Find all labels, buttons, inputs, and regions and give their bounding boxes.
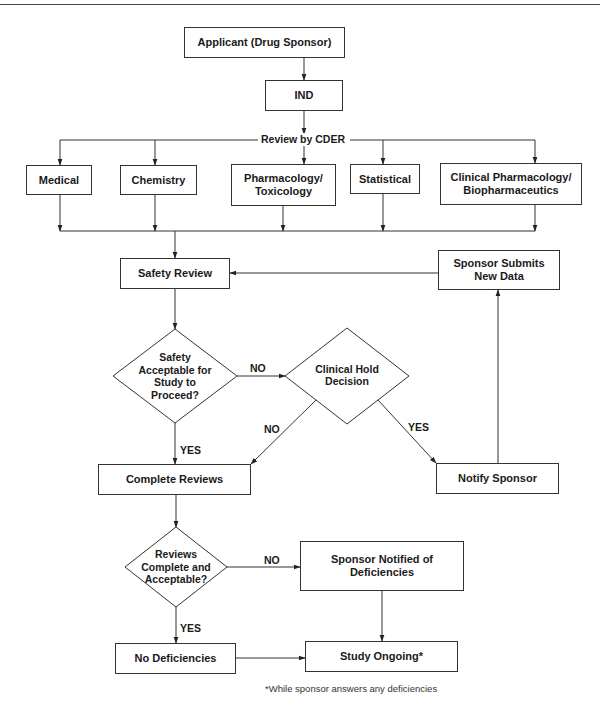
node-clinical-hold-label: Clinical Hold Decision <box>312 350 382 400</box>
edge-label-safety-yes: YES <box>180 444 201 456</box>
edge-hold-no <box>251 400 316 464</box>
node-ind: IND <box>265 80 343 111</box>
node-no-deficiencies-label: No Deficiencies <box>135 652 217 665</box>
node-statistical: Statistical <box>350 164 420 194</box>
edge-label-reviews-no: NO <box>264 554 280 566</box>
node-notify-sponsor: Notify Sponsor <box>436 463 559 494</box>
node-safety-review: Safety Review <box>120 258 230 289</box>
node-clin-pharm: Clinical Pharmacology/ Biopharmaceutics <box>440 163 582 205</box>
node-safety-decision-label: Safety Acceptable for Study to Proceed? <box>130 346 220 406</box>
node-pharm-tox: Pharmacology/ Toxicology <box>231 164 336 206</box>
node-chemistry-label: Chemistry <box>132 174 186 187</box>
node-safety-review-label: Safety Review <box>138 267 212 280</box>
node-statistical-label: Statistical <box>359 173 411 186</box>
node-sponsor-notified-label: Sponsor Notified of Deficiencies <box>327 553 437 579</box>
node-pharm-tox-label: Pharmacology/ Toxicology <box>239 172 329 198</box>
node-sponsor-notified: Sponsor Notified of Deficiencies <box>300 541 464 591</box>
review-by-cder-label: Review by CDER <box>258 133 348 145</box>
node-clin-pharm-label: Clinical Pharmacology/ Biopharmaceutics <box>446 171 576 197</box>
node-complete-reviews: Complete Reviews <box>98 464 251 495</box>
node-notify-sponsor-label: Notify Sponsor <box>458 472 537 485</box>
node-study-ongoing-label: Study Ongoing* <box>340 650 423 663</box>
node-sponsor-submits: Sponsor Submits New Data <box>438 250 560 290</box>
node-applicant-label: Applicant (Drug Sponsor) <box>198 36 332 49</box>
edge-label-hold-yes: YES <box>408 421 429 433</box>
node-complete-reviews-label: Complete Reviews <box>126 473 223 486</box>
node-chemistry: Chemistry <box>120 165 197 195</box>
node-medical: Medical <box>26 165 92 195</box>
node-applicant: Applicant (Drug Sponsor) <box>184 27 345 58</box>
node-sponsor-submits-label: Sponsor Submits New Data <box>449 257 549 283</box>
edge-label-reviews-yes: YES <box>180 622 201 634</box>
node-medical-label: Medical <box>39 174 79 187</box>
footnote: *While sponsor answers any deficiencies <box>265 683 437 694</box>
node-reviews-decision-label: Reviews Complete and Acceptable? <box>131 545 221 589</box>
node-no-deficiencies: No Deficiencies <box>115 643 236 674</box>
node-ind-label: IND <box>295 89 314 102</box>
edge-label-hold-no: NO <box>264 423 280 435</box>
edge-label-safety-no: NO <box>250 362 266 374</box>
node-study-ongoing: Study Ongoing* <box>305 641 458 672</box>
